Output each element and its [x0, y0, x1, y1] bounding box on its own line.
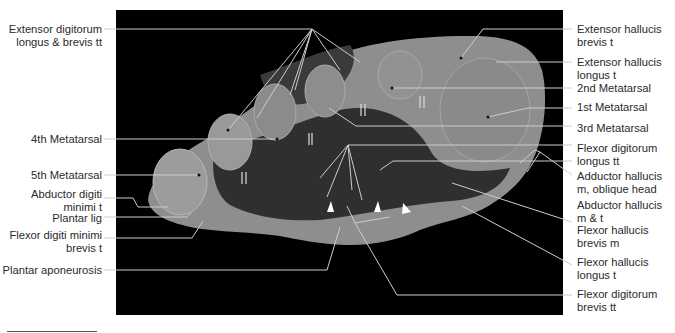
label-line: Plantar aponeurosis: [2, 264, 102, 277]
label-line: longus tt: [577, 155, 657, 168]
label-adductor-hallucis: Adductor hallucis m, oblique head: [577, 170, 662, 195]
label-line: Extensor hallucis: [577, 23, 662, 36]
label-line: 2nd Metatarsal: [577, 82, 651, 95]
label-line: Flexor hallucis: [577, 224, 649, 237]
label-line: Abductor digiti: [31, 188, 102, 201]
label-1st-metatarsal: 1st Metatarsal: [577, 101, 647, 114]
label-line: Abductor hallucis: [577, 199, 662, 212]
label-line: 5th Metatarsal: [31, 169, 102, 182]
label-2nd-metatarsal: 2nd Metatarsal: [577, 82, 651, 95]
label-line: Flexor digitorum: [577, 142, 657, 155]
label-line: Extensor hallucis: [577, 56, 662, 69]
label-line: longus & brevis tt: [9, 36, 102, 49]
label-line: Flexor digiti minimi: [9, 229, 102, 242]
label-4th-metatarsal: 4th Metatarsal: [31, 133, 102, 146]
label-flexor-hallucis-longus: Flexor hallucis longus t: [577, 256, 649, 281]
label-line: longus t: [577, 269, 649, 282]
label-line: 1st Metatarsal: [577, 101, 647, 114]
label-line: brevis t: [577, 36, 662, 49]
label-line: Plantar lig: [52, 212, 102, 225]
label-flexor-digiti-minimi-brevis: Flexor digiti minimi brevis t: [9, 229, 102, 254]
label-line: brevis t: [9, 242, 102, 255]
label-line: Adductor hallucis: [577, 170, 662, 183]
label-5th-metatarsal: 5th Metatarsal: [31, 169, 102, 182]
anatomy-illustration: [0, 0, 675, 333]
label-line: Extensor digitorum: [9, 23, 102, 36]
label-line: 4th Metatarsal: [31, 133, 102, 146]
label-plantar-aponeurosis: Plantar aponeurosis: [2, 264, 102, 277]
footnote-divider: [7, 331, 97, 332]
label-line: longus t: [577, 69, 662, 82]
label-line: m, oblique head: [577, 183, 662, 196]
label-extensor-digitorum: Extensor digitorum longus & brevis tt: [9, 23, 102, 48]
label-line: 3rd Metatarsal: [577, 122, 649, 135]
label-line: Flexor hallucis: [577, 256, 649, 269]
label-line: m & t: [577, 212, 662, 225]
label-3rd-metatarsal: 3rd Metatarsal: [577, 122, 649, 135]
label-extensor-hallucis-longus: Extensor hallucis longus t: [577, 56, 662, 81]
label-line: brevis m: [577, 237, 649, 250]
label-abductor-digiti-minimi: Abductor digiti minimi t: [31, 188, 102, 213]
label-line: Flexor digitorum: [577, 288, 657, 301]
label-extensor-hallucis-brevis: Extensor hallucis brevis t: [577, 23, 662, 48]
label-abductor-hallucis: Abductor hallucis m & t: [577, 199, 662, 224]
label-plantar-lig: Plantar lig: [52, 212, 102, 225]
label-flexor-digitorum-longus: Flexor digitorum longus tt: [577, 142, 657, 167]
label-flexor-digitorum-brevis: Flexor digitorum brevis tt: [577, 288, 657, 313]
label-flexor-hallucis-brevis: Flexor hallucis brevis m: [577, 224, 649, 249]
label-line: brevis tt: [577, 301, 657, 314]
